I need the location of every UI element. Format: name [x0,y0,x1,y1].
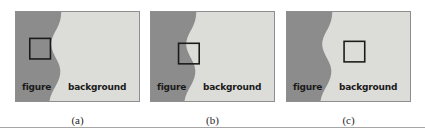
panel-a-caption: (a) [15,115,140,126]
panel-b: figure background (b) [150,11,275,102]
figure-ground-diagram: figure background (a) figure background … [0,0,425,135]
panel-c-caption: (c) [286,115,411,126]
panel-row: figure background (a) figure background … [0,0,425,118]
panel-c-frame: figure background [286,11,411,102]
panel-a-figure-label: figure [22,83,51,92]
panel-a-background-label: background [68,83,126,92]
panel-a: figure background (a) [15,11,140,102]
panel-a-frame: figure background [15,11,140,102]
panel-b-caption: (b) [150,115,275,126]
panel-c: figure background (c) [286,11,411,102]
panel-b-background-label: background [203,83,261,92]
panel-b-frame: figure background [150,11,275,102]
panel-c-background-label: background [339,83,397,92]
panel-c-figure-label: figure [293,83,322,92]
bottom-divider [0,127,425,128]
panel-b-figure-label: figure [157,83,186,92]
